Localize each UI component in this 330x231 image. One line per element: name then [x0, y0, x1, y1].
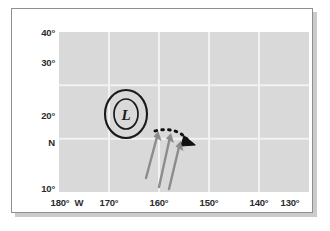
y-tick-label-10: 10° — [22, 184, 55, 194]
flow-arrow-1 — [146, 131, 162, 178]
storm-track — [155, 130, 195, 146]
map-card: L — [11, 8, 313, 213]
flow-arrow-3 — [169, 141, 184, 189]
flow-arrows — [146, 131, 184, 189]
flow-arrow-3-shaft — [169, 145, 180, 189]
y-tick-label-40: 40° — [22, 28, 55, 38]
x-tick-label-150: 150° — [189, 198, 229, 208]
y-tick-label-30: 30° — [22, 58, 55, 68]
y-tick-label-20: 20° — [22, 111, 55, 121]
x-tick-label-130: 130° — [270, 198, 310, 208]
map-features: L — [59, 32, 309, 192]
weather-map-figure: L — [0, 0, 330, 231]
flow-arrow-1-shaft — [146, 135, 158, 178]
storm-track-arrowhead — [181, 136, 195, 146]
y-tick-label-n: N — [22, 138, 55, 148]
low-pressure-center: L — [105, 90, 147, 138]
x-tick-label-170: 170° — [89, 198, 129, 208]
low-pressure-label: L — [120, 107, 130, 123]
x-tick-label-w: W — [69, 198, 89, 208]
x-tick-label-160: 160° — [139, 198, 179, 208]
map-plot-area: L — [59, 32, 309, 192]
flow-arrow-2-shaft — [159, 137, 170, 187]
